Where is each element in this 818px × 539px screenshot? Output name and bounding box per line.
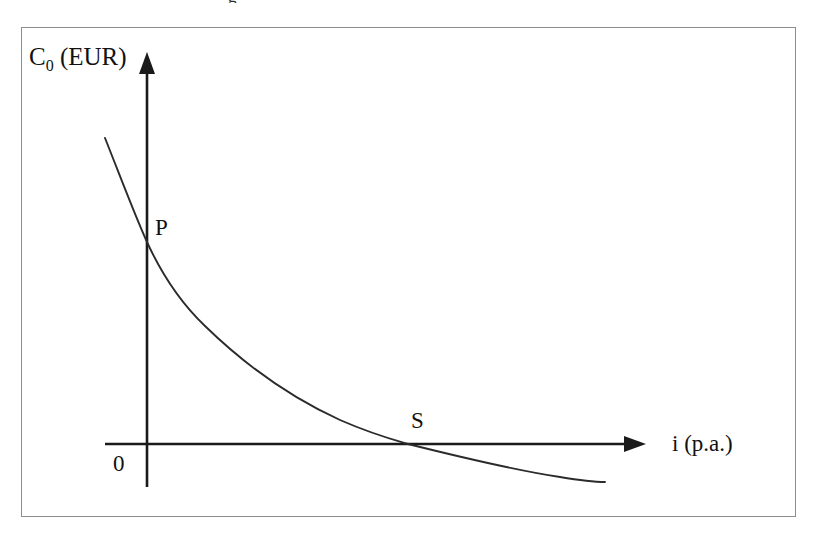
point-label-s: S <box>411 409 424 432</box>
y-axis-label-subscript: 0 <box>46 57 54 74</box>
y-axis-label: C0 (EUR) <box>29 44 127 74</box>
y-axis-label-unit: (EUR) <box>54 43 127 70</box>
origin-label: 0 <box>113 452 125 475</box>
figure-root: g C0 (EUR) i (p.a.) 0 P S <box>0 0 818 539</box>
y-axis-arrowhead-icon <box>139 52 155 74</box>
y-axis-label-main: C <box>29 43 46 70</box>
npv-curve-path <box>105 138 605 482</box>
x-axis-arrowhead-icon <box>624 436 646 452</box>
x-axis-label: i (p.a.) <box>672 432 733 455</box>
point-label-p: P <box>155 216 168 239</box>
